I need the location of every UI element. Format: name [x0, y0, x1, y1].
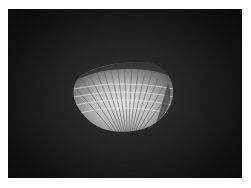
shell-illustration — [8, 9, 242, 178]
shell-photo — [8, 9, 242, 178]
